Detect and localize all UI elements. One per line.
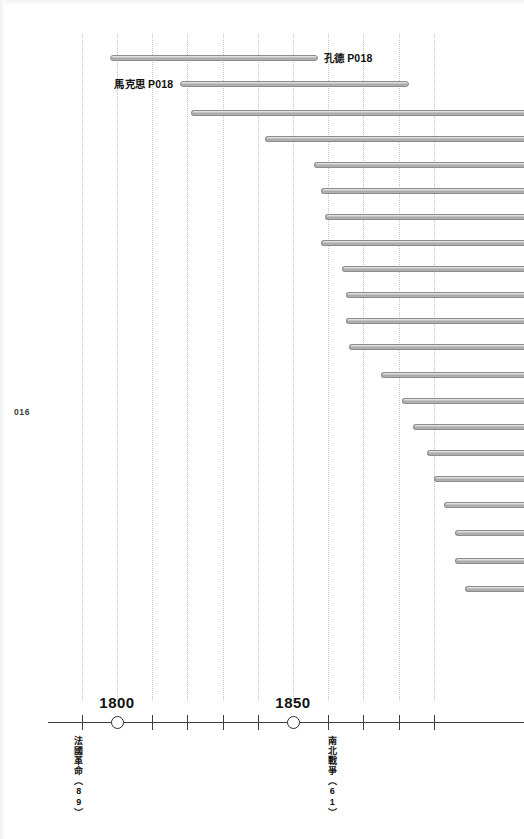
gridline-1790 xyxy=(82,34,84,701)
axis-label-1850: 1850 xyxy=(275,694,310,711)
gridline-1890 xyxy=(434,34,436,701)
gridline-1810 xyxy=(152,34,154,701)
gridline-1850 xyxy=(293,34,295,701)
page-canvas: 016 孔德 P018馬克思 P018 18001850 法國革命（89）南北戰… xyxy=(0,0,524,839)
timeline-bar xyxy=(346,292,524,298)
gridline-1870 xyxy=(363,34,365,701)
timeline-bar xyxy=(325,214,524,220)
timeline-bar xyxy=(455,530,524,536)
timeline-bar xyxy=(342,266,524,272)
timeline-bar xyxy=(110,55,318,61)
axis-tick-1840 xyxy=(258,715,259,730)
gridline-1880 xyxy=(399,34,401,701)
gridline-1860 xyxy=(328,34,330,701)
timeline-bar xyxy=(191,110,524,116)
timeline-bar xyxy=(346,318,524,324)
timeline-bar xyxy=(402,398,524,404)
axis-tick-1880 xyxy=(399,715,400,730)
event-label: 南北戰爭（61） xyxy=(327,736,336,818)
bar-label: 馬克思 P018 xyxy=(114,76,173,91)
timeline-bar xyxy=(427,450,524,456)
timeline-bar xyxy=(455,558,524,564)
bar-label: 孔德 P018 xyxy=(324,50,373,65)
gridline-1800 xyxy=(117,34,119,701)
timeline-bar xyxy=(321,240,524,246)
axis-tick-1820 xyxy=(187,715,188,730)
axis-label-1800: 1800 xyxy=(99,694,134,711)
axis-tick-1870 xyxy=(363,715,364,730)
gridline-1820 xyxy=(187,34,189,701)
gridline-1840 xyxy=(258,34,260,701)
timeline-bar xyxy=(434,476,524,482)
axis-tick-1810 xyxy=(152,715,153,730)
event-label: 法國革命（89） xyxy=(74,736,83,818)
axis-tick-1790 xyxy=(82,715,83,730)
axis-marker-1800 xyxy=(111,716,124,729)
gridline-1830 xyxy=(223,34,225,701)
timeline-bar xyxy=(314,162,524,168)
timeline-plot-area: 孔德 P018馬克思 P018 xyxy=(0,0,524,720)
timeline-bar xyxy=(349,344,524,350)
timeline-bar xyxy=(465,586,524,592)
axis-tick-1830 xyxy=(223,715,224,730)
timeline-bar xyxy=(444,502,524,508)
axis-marker-1850 xyxy=(287,716,300,729)
timeline-bar xyxy=(265,136,524,142)
axis-tick-1860 xyxy=(328,715,329,730)
time-axis: 18001850 法國革命（89）南北戰爭（61） xyxy=(0,700,524,839)
axis-tick-1890 xyxy=(434,715,435,730)
timeline-bar xyxy=(180,81,409,87)
timeline-bar xyxy=(413,424,524,430)
timeline-bar xyxy=(321,188,524,194)
timeline-bar xyxy=(381,372,524,378)
